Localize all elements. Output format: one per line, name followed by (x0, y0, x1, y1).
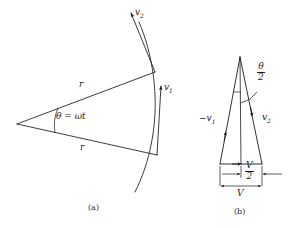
half-angle-leader-line (250, 92, 257, 99)
half-angle-label-b: θ 2 (257, 62, 265, 83)
panel-b-caption: (b) (234, 207, 245, 216)
half-V-numerator: V (245, 161, 254, 170)
full-V-dimension-label: V (237, 189, 244, 198)
radius-lower-line (17, 124, 157, 155)
velocity-vector-1-arrow (157, 86, 161, 155)
panel-b-caption-text: (b) (234, 207, 245, 216)
panel-a-caption: (a) (88, 203, 99, 212)
radius-upper-label: r (79, 80, 83, 89)
radius-upper-line (17, 72, 155, 124)
velocity-2-subscript-a: 2 (140, 12, 144, 19)
radius-upper-label-text: r (79, 79, 83, 89)
half-angle-denominator: 2 (257, 73, 265, 82)
velocity-2-label-b: v2 (262, 113, 271, 124)
minus-velocity-1-subscript: 1 (212, 118, 216, 125)
minus-velocity-1-symbol: −v (199, 113, 212, 123)
physics-figure: θ = ωt r r v2 v1 (a) θ 2 −v1 v2 V 2 V (b… (0, 0, 291, 228)
panel-a-caption-text: (a) (88, 203, 99, 212)
angle-label-a: θ = ωt (56, 112, 86, 121)
figure-vector-canvas (0, 0, 291, 228)
half-angle-arc-marker (241, 99, 250, 103)
half-angle-numerator: θ (257, 62, 265, 71)
angle-label-text: θ = ωt (56, 111, 86, 121)
velocity-2-label-a: v2 (135, 8, 144, 19)
half-V-denominator: 2 (245, 172, 254, 181)
triangle-left-side (220, 57, 240, 164)
velocity-1-subscript-a: 1 (169, 87, 173, 94)
half-V-dimension-label: V 2 (245, 161, 254, 182)
full-V-text: V (237, 188, 244, 198)
velocity-2-subscript-b: 2 (267, 117, 271, 124)
radius-lower-label-text: r (80, 142, 84, 152)
radius-lower-label: r (80, 143, 84, 152)
panel-a-geometry (17, 13, 161, 192)
velocity-1-label-a: v1 (164, 83, 173, 94)
velocity-vector-2-arrow (131, 13, 155, 72)
triangle-median-line (240, 57, 241, 164)
minus-velocity-1-label-b: −v1 (199, 114, 215, 125)
